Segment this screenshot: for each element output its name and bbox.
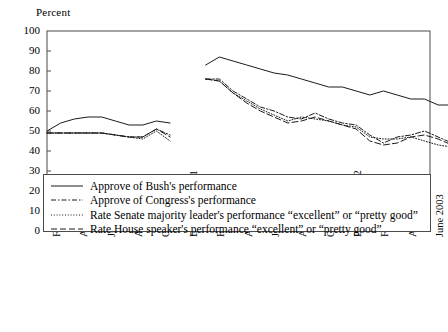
legend-line-swatch — [50, 194, 84, 206]
legend-item: Rate Senate majority leader's performanc… — [50, 207, 418, 222]
legend-item: Approve of Bush's performance — [50, 178, 237, 193]
legend-item: Rate House speaker's performance “excell… — [50, 222, 382, 237]
plot-area — [0, 0, 448, 332]
legend-item-label: Rate Senate majority leader's performanc… — [90, 209, 418, 221]
legend-item-label: Rate House speaker's performance “excell… — [90, 223, 382, 235]
legend-line-swatch — [50, 223, 84, 235]
line-chart: Percent 0102030405060708090100 February … — [0, 0, 448, 332]
x-tick-label: June 2003 — [434, 194, 445, 237]
legend-item-label: Approve of Congress's performance — [90, 194, 256, 206]
legend-item: Approve of Congress's performance — [50, 193, 256, 208]
legend-line-swatch — [50, 209, 84, 221]
legend-line-swatch — [50, 180, 84, 192]
legend-item-label: Approve of Bush's performance — [90, 180, 237, 192]
